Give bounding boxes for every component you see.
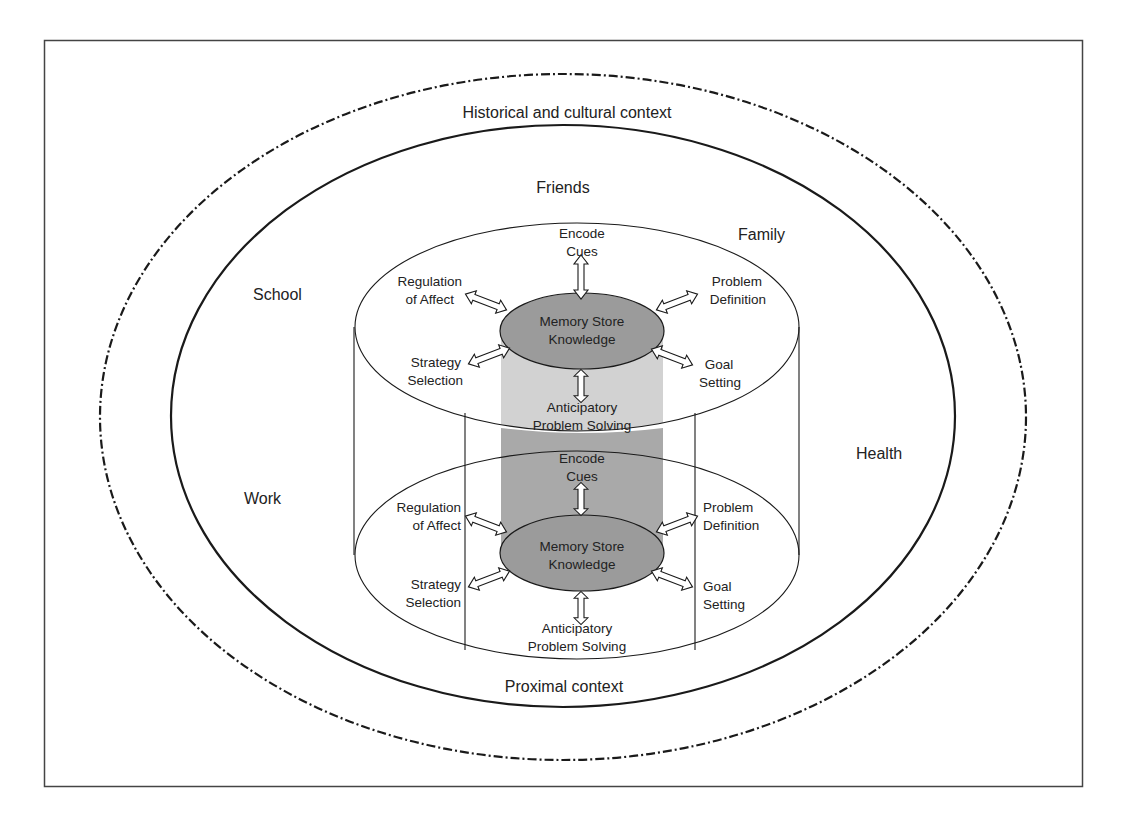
lower-regulation-1: Regulation: [396, 500, 461, 515]
lower-strategy-1: Strategy: [411, 577, 462, 592]
historical-context-label: Historical and cultural context: [463, 104, 673, 121]
upper-anticipatory-2: Problem Solving: [533, 418, 631, 433]
lower-memory-label-2: Knowledge: [549, 557, 616, 572]
upper-encode-2: Cues: [566, 244, 598, 259]
diagram-canvas: Historical and cultural context Proximal…: [0, 0, 1121, 831]
setting-friends: Friends: [536, 179, 589, 196]
upper-regulation-2: of Affect: [405, 292, 454, 307]
upper-strategy-2: Selection: [407, 373, 463, 388]
lower-goal-2: Setting: [703, 597, 745, 612]
lower-regulation-2: of Affect: [412, 518, 461, 533]
lower-anticipatory-2: Problem Solving: [528, 639, 626, 654]
setting-health: Health: [856, 445, 902, 462]
upper-encode-1: Encode: [559, 226, 605, 241]
lower-memory-label-1: Memory Store: [540, 539, 625, 554]
upper-memory-store: [500, 293, 664, 369]
proximal-context-label: Proximal context: [505, 678, 624, 695]
upper-goal-1: Goal: [705, 357, 734, 372]
upper-memory-label-1: Memory Store: [540, 314, 625, 329]
setting-family: Family: [738, 226, 785, 243]
upper-problem-1: Problem: [712, 274, 762, 289]
upper-strategy-1: Strategy: [411, 355, 462, 370]
lower-problem-2: Definition: [703, 518, 759, 533]
lower-goal-1: Goal: [703, 579, 732, 594]
lower-problem-1: Problem: [703, 500, 753, 515]
lower-anticipatory-1: Anticipatory: [542, 621, 613, 636]
upper-goal-2: Setting: [699, 375, 741, 390]
upper-regulation-1: Regulation: [397, 274, 462, 289]
lower-strategy-2: Selection: [405, 595, 461, 610]
upper-anticipatory-1: Anticipatory: [547, 400, 618, 415]
lower-encode-2: Cues: [566, 469, 598, 484]
setting-work: Work: [244, 490, 282, 507]
lower-encode-1: Encode: [559, 451, 605, 466]
upper-problem-2: Definition: [710, 292, 766, 307]
upper-memory-label-2: Knowledge: [549, 332, 616, 347]
setting-school: School: [253, 286, 302, 303]
